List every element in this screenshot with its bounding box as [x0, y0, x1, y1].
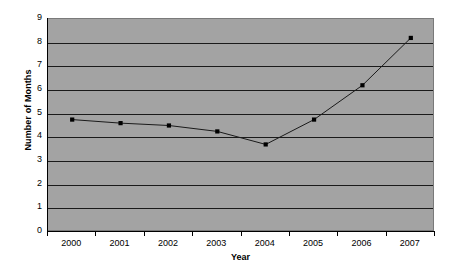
plot-area: [47, 18, 434, 231]
x-axis-tick-mark: [434, 232, 435, 236]
data-point-marker: [360, 83, 364, 87]
x-axis-tick-mark: [337, 232, 338, 236]
x-axis-tick-mark: [192, 232, 193, 236]
x-axis-tick-marks: [47, 232, 434, 237]
data-series-line: [48, 19, 434, 231]
series-polyline: [72, 38, 411, 144]
x-axis-title: Year: [47, 252, 434, 262]
y-axis-tick-label: 6: [22, 84, 42, 93]
data-point-marker: [118, 121, 122, 125]
x-axis-tick-mark: [95, 232, 96, 236]
y-axis-tick-label: 4: [22, 131, 42, 140]
y-axis-tick-label: 0: [22, 226, 42, 235]
x-axis-tick-label: 2005: [289, 238, 337, 249]
data-point-marker: [312, 117, 316, 121]
data-point-marker: [167, 123, 171, 127]
line-chart: Number of Months 0123456789 200020012002…: [0, 0, 459, 271]
y-axis-tick-label: 3: [22, 155, 42, 164]
y-axis-tick-label: 2: [22, 179, 42, 188]
x-axis-tick-label: 2001: [96, 238, 144, 249]
x-axis-tick-mark: [47, 232, 48, 236]
y-axis-tick-labels: 0123456789: [22, 18, 42, 231]
x-axis-tick-label: 2000: [47, 238, 95, 249]
data-point-marker: [409, 36, 413, 40]
x-axis-tick-label: 2002: [144, 238, 192, 249]
x-axis-tick-mark: [386, 232, 387, 236]
y-axis-tick-label: 5: [22, 108, 42, 117]
data-point-marker: [264, 142, 268, 146]
y-axis-tick-label: 1: [22, 202, 42, 211]
x-axis-tick-mark: [289, 232, 290, 236]
x-axis-tick-labels: 20002001200220032004200520062007: [47, 238, 434, 251]
x-axis-tick-mark: [144, 232, 145, 236]
y-axis-line: [47, 18, 48, 232]
x-axis-tick-label: 2007: [386, 238, 434, 249]
y-axis-tick-label: 9: [22, 13, 42, 22]
y-axis-tick-label: 7: [22, 60, 42, 69]
x-axis-tick-label: 2003: [192, 238, 240, 249]
x-axis-tick-mark: [241, 232, 242, 236]
x-axis-tick-label: 2004: [241, 238, 289, 249]
x-axis-tick-label: 2006: [337, 238, 385, 249]
data-point-marker: [70, 117, 74, 121]
data-point-marker: [215, 129, 219, 133]
y-axis-tick-label: 8: [22, 37, 42, 46]
